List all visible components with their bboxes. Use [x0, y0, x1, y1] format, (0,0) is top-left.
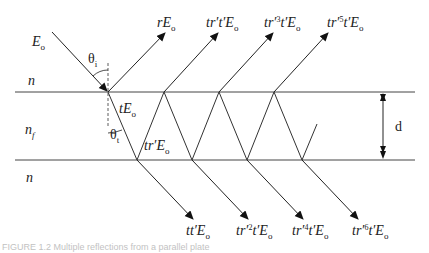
thickness-label: d [395, 119, 402, 134]
transmitted-label-2: tr′2t′Eo [236, 223, 273, 241]
incident-ray [52, 32, 107, 91]
reflected-beam-2 [164, 33, 218, 92]
first-internal-reflection-label: tr′Eo [144, 138, 170, 156]
transmitted-beam-3 [247, 160, 303, 219]
reflected-label-4: tr′5t′Eo [327, 15, 364, 33]
incident-angle-label: θi [88, 51, 98, 69]
reflected-label-2: tr′t′Eo [206, 15, 239, 33]
incident-field-label: Eo [31, 34, 46, 52]
reflected-beam-3 [219, 33, 273, 92]
transmitted-beam-4 [302, 160, 358, 219]
reflected-label-1: rEo [157, 15, 176, 33]
transmitted-beam-1 [137, 160, 193, 219]
first-transmitted-label: tEo [119, 101, 136, 119]
transmitted-angle-label: θt [110, 127, 120, 145]
transmitted-label-3: tr′4t′Eo [292, 223, 329, 241]
reflected-beam-4 [274, 33, 328, 92]
transmitted-label-4: tr′6t′Eo [352, 223, 389, 241]
thickness-arrow-top-head [380, 93, 386, 101]
reflected-beam-1 [108, 33, 165, 92]
transmitted-beam-2 [192, 160, 248, 219]
incident-angle-arc [93, 70, 108, 76]
internal-zigzag-path [108, 92, 317, 160]
thickness-arrow-bottom-head [380, 151, 386, 159]
figure-caption: FIGURE 1.2 Multiple reflections from a p… [2, 242, 210, 252]
transmitted-label-1: tt′Eo [186, 223, 210, 241]
medium-label-top: n [28, 73, 35, 88]
thin-film-interference-diagram: n nf n Eo θi θt tEo tr′Eo rEo tr′t′Eo tr… [0, 0, 429, 253]
reflected-label-3: tr′3t′Eo [264, 15, 301, 33]
medium-label-bottom: n [26, 170, 33, 185]
medium-label-film: nf [25, 122, 36, 140]
